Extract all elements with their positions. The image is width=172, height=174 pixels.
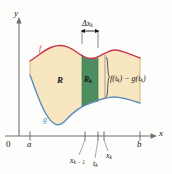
- region-R-label: R: [57, 76, 63, 85]
- height-expr-part2: ) − g(t: [120, 74, 141, 83]
- x-axis-arrowhead: [151, 133, 158, 138]
- strip-Rk-label: Rk: [84, 76, 92, 85]
- strip-Rk-label-subscript: k: [89, 78, 92, 84]
- tick-label-tk: tk: [93, 160, 98, 169]
- tick-label-xk-minus-1-subscript: k − 1: [74, 159, 86, 165]
- tick-label-xk-subscript: k: [110, 154, 112, 160]
- delta-x-label-base: Δx: [82, 19, 90, 28]
- delta-x-label: Δxk: [82, 20, 93, 29]
- tick-label-xk-minus-1: xk − 1: [70, 157, 85, 166]
- height-expr-part3: ): [143, 74, 146, 83]
- y-axis-label: y: [14, 9, 18, 18]
- area-between-curves-figure: y x 0 a b f g R Rk Δxk f(tk) − g(tk) xk …: [0, 0, 172, 174]
- leader-tk: [95, 140, 98, 158]
- x-axis-label: x: [159, 129, 163, 138]
- delta-x-label-subscript: k: [90, 22, 92, 28]
- width-bracket-arrow-left: [81, 29, 86, 33]
- curve-g-label: g: [43, 116, 47, 124]
- tick-label-tk-subscript: k: [95, 162, 97, 168]
- curve-f-label: f: [39, 45, 41, 53]
- tick-label-a: a: [27, 140, 32, 149]
- tick-label-xk: xk: [106, 152, 112, 161]
- origin-label: 0: [6, 140, 11, 149]
- width-bracket-arrow-right: [95, 29, 100, 33]
- height-expression-label: f(tk) − g(tk): [110, 75, 146, 84]
- leader-xk: [104, 140, 108, 151]
- leader-xk-minus-1: [79, 140, 85, 155]
- tick-label-b: b: [137, 140, 142, 149]
